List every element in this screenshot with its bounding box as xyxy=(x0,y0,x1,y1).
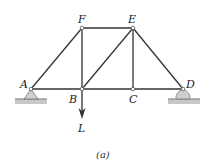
joint-f xyxy=(80,26,84,30)
label-f: F xyxy=(77,13,86,26)
label-d: D xyxy=(185,78,195,91)
truss-members xyxy=(31,28,183,89)
joint-e xyxy=(131,26,135,30)
ground-d xyxy=(168,99,200,104)
member-be xyxy=(82,28,133,89)
label-b: B xyxy=(68,93,77,106)
joint-b xyxy=(80,87,84,91)
member-af xyxy=(31,28,82,89)
label-c: C xyxy=(129,93,138,106)
load-arrow-icon xyxy=(79,89,86,119)
label-e: E xyxy=(127,13,136,26)
joint-c xyxy=(131,87,135,91)
figure-caption: (a) xyxy=(96,149,110,160)
member-ed xyxy=(133,28,183,89)
label-load: L xyxy=(77,122,85,135)
ground-a xyxy=(15,99,47,104)
joint-d xyxy=(181,87,185,91)
joint-a xyxy=(29,87,33,91)
label-a: A xyxy=(19,78,28,91)
truss-diagram: A B C D E F L (a) xyxy=(0,0,211,166)
